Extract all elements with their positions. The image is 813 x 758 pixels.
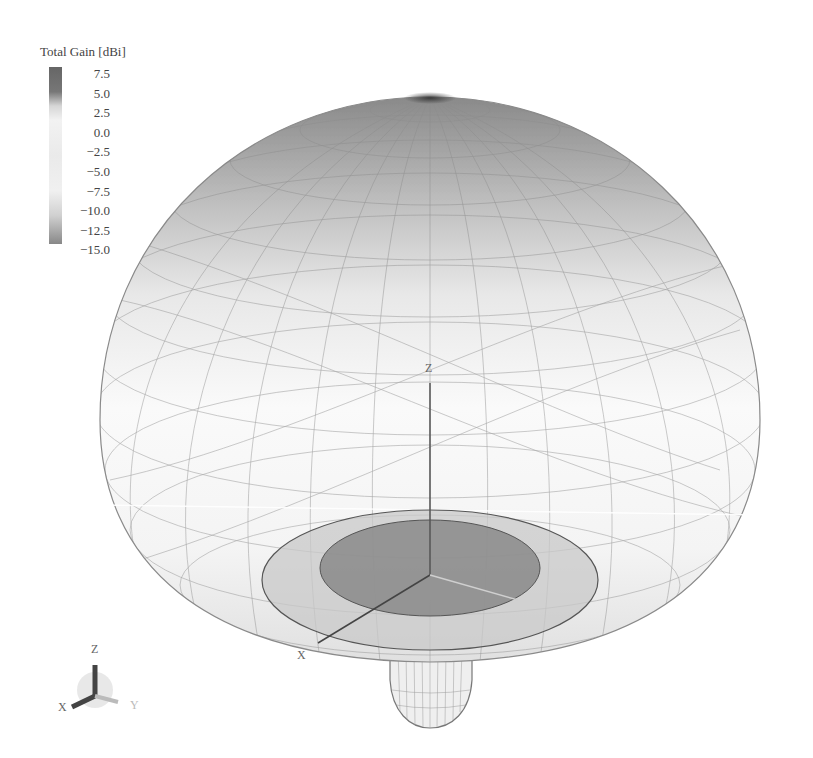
radiation-pattern-3d[interactable]: [0, 0, 813, 758]
x-axis-label: X: [297, 648, 306, 663]
triad-y-label: Y: [130, 698, 139, 713]
z-axis-label: Z: [425, 361, 432, 376]
triad-z-label: Z: [91, 642, 98, 657]
triad-x-label: X: [58, 700, 67, 715]
orientation-triad[interactable]: [72, 665, 118, 708]
